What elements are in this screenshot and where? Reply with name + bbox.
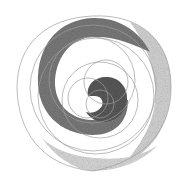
spiral-drawing (0, 0, 186, 189)
artwork-canvas: Spiral of circles pencil drawing (0, 0, 186, 189)
